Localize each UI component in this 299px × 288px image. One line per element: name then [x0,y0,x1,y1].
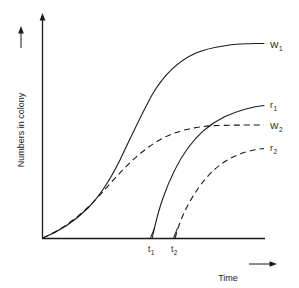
curve-label-r2-sub: 2 [274,148,278,155]
y-axis-title: Numbers in colony [16,92,26,167]
chart-figure: W1 r1 W2 r2 t1 t2 Time Numbers in colony [0,0,299,288]
curve-label-w1-sub: 1 [279,45,283,52]
y-axis-title-arrow-icon [18,26,24,48]
x-tick-label-t1-sub: 1 [151,249,155,256]
curve-label-w1: W1 [270,40,283,52]
curve-label-r2: r2 [270,143,278,155]
curve-label-w2-base: W [270,121,279,131]
y-axis-arrow-icon [40,13,46,21]
curve-r2 [175,149,264,239]
x-axis-title: Time [218,273,238,283]
curve-label-r1: r1 [270,100,278,112]
curve-label-w1-base: W [270,40,279,50]
curve-label-w2-sub: 2 [279,126,283,133]
curve-w1 [43,43,264,238]
x-tick-label-t1: t1 [148,244,155,256]
curve-label-r1-sub: 1 [274,105,278,112]
curve-w2 [43,125,264,238]
x-tick-label-t2-sub: 2 [174,249,178,256]
x-tick-label-t2: t2 [171,244,178,256]
chart-svg: W1 r1 W2 r2 t1 t2 Time Numbers in colony [0,0,299,288]
x-axis-arrow-icon [249,261,277,267]
curve-label-w2: W2 [270,121,283,133]
